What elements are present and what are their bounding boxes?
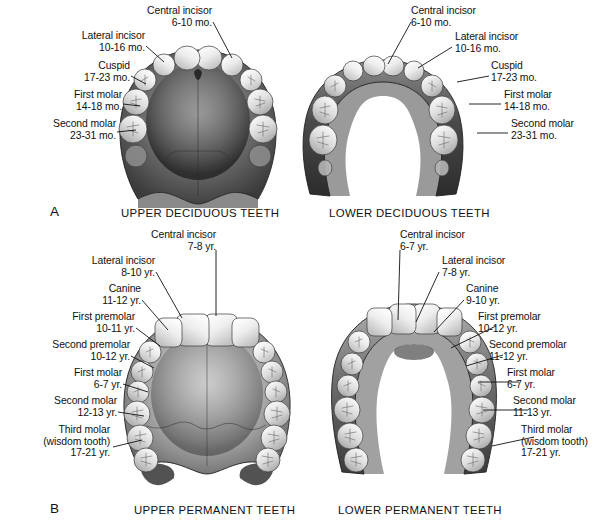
label-name: Lateral incisor bbox=[455, 31, 597, 43]
label-b-upper-first-premolar: First premolar 10-11 yr. bbox=[0, 311, 135, 334]
label-age: 17-21 yr. bbox=[521, 447, 597, 459]
label-age: 6-10 mo. bbox=[411, 17, 581, 29]
label-a-upper-cuspid: Cuspid 17-23 mo. bbox=[0, 60, 130, 83]
label-age: 8-10 yr. bbox=[0, 267, 155, 279]
label-age: 14-18 mo. bbox=[0, 101, 122, 113]
label-name: First molar bbox=[504, 89, 597, 101]
label-age: 6-7 yr. bbox=[400, 241, 570, 253]
label-name: Lateral incisor bbox=[0, 30, 145, 42]
label-b-lower-central-incisor: Central incisor 6-7 yr. bbox=[400, 229, 570, 252]
label-b-upper-third-molar: Third molar (wisdom tooth) 17-21 yr. bbox=[0, 424, 110, 459]
label-age: 23-31 mo. bbox=[511, 130, 597, 142]
label-a-lower-second-molar: Second molar 23-31 mo. bbox=[511, 118, 597, 141]
label-a-upper-second-molar: Second molar 23-31 mo. bbox=[0, 118, 116, 141]
label-name: Central incisor bbox=[40, 5, 212, 17]
label-b-lower-second-molar: Second molar 11-13 yr. bbox=[513, 395, 597, 418]
label-name: Second molar bbox=[0, 395, 117, 407]
label-a-upper-first-molar: First molar 14-18 mo. bbox=[0, 89, 122, 112]
label-name: Lateral incisor bbox=[0, 255, 155, 267]
label-age: 10-16 mo. bbox=[0, 42, 145, 54]
label-a-lower-central-incisor: Central incisor 6-10 mo. bbox=[411, 5, 581, 28]
label-age: 23-31 mo. bbox=[0, 130, 116, 142]
label-b-lower-canine: Canine 9-10 yr. bbox=[466, 283, 597, 306]
label-name: Second molar bbox=[0, 118, 116, 130]
label-age: 17-23 mo. bbox=[0, 72, 130, 84]
label-b-lower-first-molar: First molar 6-7 yr. bbox=[507, 367, 597, 390]
label-a-lower-first-molar: First molar 14-18 mo. bbox=[504, 89, 597, 112]
label-name: Second molar bbox=[513, 395, 597, 407]
label-a-lower-cuspid: Cuspid 17-23 mo. bbox=[491, 60, 597, 83]
label-b-upper-lateral-incisor: Lateral incisor 8-10 yr. bbox=[0, 255, 155, 278]
label-b-upper-central-incisor: Central incisor 7-8 yr. bbox=[44, 229, 216, 252]
label-b-lower-third-molar: Third molar (wisdom tooth) 17-21 yr. bbox=[521, 424, 597, 459]
label-b-upper-first-molar: First molar 6-7 yr. bbox=[0, 367, 122, 390]
label-age: 11-12 yr. bbox=[0, 295, 141, 307]
label-name: Third molar bbox=[521, 424, 597, 436]
label-b-lower-lateral-incisor: Lateral incisor 7-8 yr. bbox=[442, 255, 597, 278]
label-a-lower-lateral-incisor: Lateral incisor 10-16 mo. bbox=[455, 31, 597, 54]
label-name: Central incisor bbox=[44, 229, 216, 241]
lower-deciduous-arch-illustration bbox=[296, 56, 471, 206]
label-name2: (wisdom tooth) bbox=[521, 436, 597, 448]
label-b-lower-first-premolar: First premolar 10-12 yr. bbox=[478, 311, 597, 334]
label-name: First molar bbox=[0, 89, 122, 101]
caption-lower-permanent: LOWER PERMANENT TEETH bbox=[338, 504, 502, 516]
upper-deciduous-arch-illustration bbox=[108, 44, 288, 209]
label-age: 10-16 mo. bbox=[455, 43, 597, 55]
upper-permanent-arch-illustration bbox=[112, 310, 302, 490]
label-age: 6-7 yr. bbox=[0, 379, 122, 391]
label-name: First premolar bbox=[478, 311, 597, 323]
label-name: Second premolar bbox=[489, 339, 597, 351]
label-age: 11-12 yr. bbox=[489, 351, 597, 363]
caption-upper-permanent: UPPER PERMANENT TEETH bbox=[134, 504, 295, 516]
label-name: Central incisor bbox=[411, 5, 581, 17]
label-age: 10-12 yr. bbox=[0, 351, 130, 363]
panel-letter-a: A bbox=[50, 204, 59, 219]
label-name: Cuspid bbox=[491, 60, 597, 72]
label-age: 7-8 yr. bbox=[44, 241, 216, 253]
label-b-upper-second-premolar: Second premolar 10-12 yr. bbox=[0, 339, 130, 362]
label-name: Cuspid bbox=[0, 60, 130, 72]
label-b-upper-second-molar: Second molar 12-13 yr. bbox=[0, 395, 117, 418]
label-age: 6-10 mo. bbox=[40, 17, 212, 29]
label-b-upper-canine: Canine 11-12 yr. bbox=[0, 283, 141, 306]
label-b-lower-second-premolar: Second premolar 11-12 yr. bbox=[489, 339, 597, 362]
label-name: First premolar bbox=[0, 311, 135, 323]
label-age: 9-10 yr. bbox=[466, 295, 597, 307]
label-age: 7-8 yr. bbox=[442, 267, 597, 279]
label-name: Second premolar bbox=[0, 339, 130, 351]
caption-lower-deciduous: LOWER DECIDUOUS TEETH bbox=[329, 207, 490, 219]
label-name: Central incisor bbox=[400, 229, 570, 241]
label-age: 10-11 yr. bbox=[0, 323, 135, 335]
label-a-upper-central-incisor: Central incisor 6-10 mo. bbox=[40, 5, 212, 28]
label-age: 14-18 mo. bbox=[504, 101, 597, 113]
label-name: First molar bbox=[0, 367, 122, 379]
label-age: 11-13 yr. bbox=[513, 407, 597, 419]
caption-upper-deciduous: UPPER DECIDUOUS TEETH bbox=[121, 207, 279, 219]
label-name: Second molar bbox=[511, 118, 597, 130]
tooth-eruption-figure: Central incisor 6-10 mo. Lateral incisor… bbox=[0, 0, 597, 524]
label-age: 17-21 yr. bbox=[0, 447, 110, 459]
label-name: First molar bbox=[507, 367, 597, 379]
label-name: Third molar bbox=[0, 424, 110, 436]
label-name: Canine bbox=[466, 283, 597, 295]
label-age: 17-23 mo. bbox=[491, 72, 597, 84]
label-a-upper-lateral-incisor: Lateral incisor 10-16 mo. bbox=[0, 30, 145, 53]
label-age: 6-7 yr. bbox=[507, 379, 597, 391]
label-name: Canine bbox=[0, 283, 141, 295]
panel-letter-b: B bbox=[50, 501, 59, 516]
label-age: 10-12 yr. bbox=[478, 323, 597, 335]
label-name: Lateral incisor bbox=[442, 255, 597, 267]
label-name2: (wisdom tooth) bbox=[0, 436, 110, 448]
label-age: 12-13 yr. bbox=[0, 407, 117, 419]
